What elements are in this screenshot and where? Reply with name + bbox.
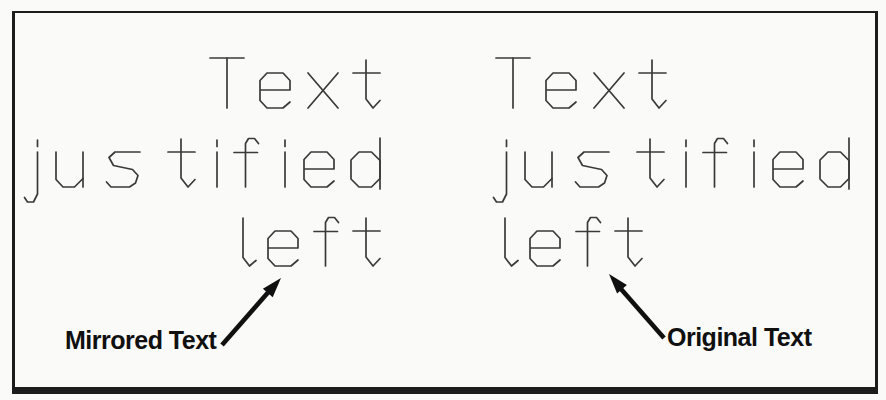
mirrored-arrow	[222, 278, 281, 345]
original-text-block	[494, 58, 850, 266]
cad-glyph-e	[546, 73, 576, 108]
cad-glyph-e	[530, 231, 560, 266]
original-arrow	[609, 274, 664, 338]
cad-glyph-u	[56, 152, 83, 187]
cad-glyph-t	[650, 139, 664, 187]
figure-page: Mirrored Text Original Text	[0, 0, 886, 400]
cad-glyph-l	[505, 218, 518, 266]
cad-glyph-s	[576, 152, 610, 187]
cad-glyph-t	[366, 60, 380, 108]
cad-glyph-d	[820, 152, 849, 187]
cad-glyph-j	[494, 152, 507, 202]
cad-glyph-d	[351, 152, 380, 187]
cad-glyph-e	[268, 231, 298, 266]
cad-glyph-s	[107, 152, 141, 187]
cad-glyph-f	[588, 218, 601, 267]
cad-glyph-j	[25, 152, 38, 202]
cad-glyph-e	[304, 152, 334, 187]
cad-glyph-l	[243, 218, 256, 266]
cad-glyph-f	[246, 139, 259, 188]
cad-glyph-e	[773, 152, 803, 187]
cad-glyph-f	[326, 218, 339, 267]
mirrored-text-block	[25, 58, 381, 266]
mirrored-text-label: Mirrored Text	[65, 328, 216, 353]
cad-glyph-e	[260, 73, 290, 108]
original-text-label: Original Text	[667, 325, 811, 350]
cad-glyph-t	[181, 139, 195, 187]
cad-glyph-t	[366, 218, 380, 266]
cad-glyph-f	[715, 139, 728, 188]
cad-glyph-t	[652, 60, 666, 108]
cad-glyph-t	[628, 218, 642, 266]
cad-glyph-u	[525, 152, 552, 187]
